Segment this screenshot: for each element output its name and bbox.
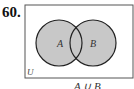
caption: A ∪ B <box>74 80 101 89</box>
venn-diagram: A B U <box>0 0 134 89</box>
universe-label: U <box>27 67 34 77</box>
set-b-label: B <box>90 38 96 49</box>
set-a-label: A <box>56 38 64 49</box>
